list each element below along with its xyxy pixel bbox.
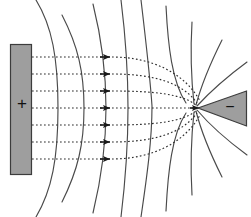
field-line <box>196 111 222 177</box>
field-diagram-canvas <box>0 0 251 217</box>
field-line <box>191 112 194 195</box>
field-line <box>166 6 186 103</box>
field-line <box>141 0 152 217</box>
field-line-plate-loop <box>36 0 58 217</box>
field-line <box>191 22 194 104</box>
electric-field-diagram: + − <box>0 0 251 217</box>
positive-charge-label: + <box>14 95 30 113</box>
field-line <box>166 113 186 211</box>
negative-charge-label: − <box>222 99 238 115</box>
field-line <box>196 40 222 105</box>
